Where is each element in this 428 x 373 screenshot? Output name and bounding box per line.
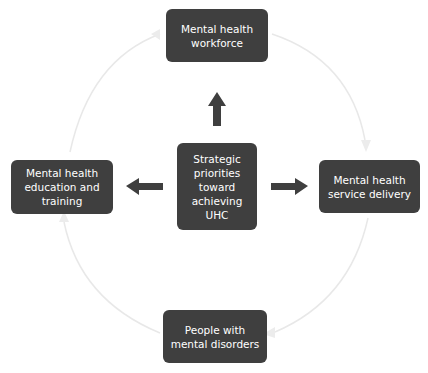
node-top: Mental health workforce bbox=[166, 9, 268, 62]
node-left-label: Mental health education and training bbox=[15, 166, 109, 208]
hub-label: Strategic priorities toward achieving UH… bbox=[181, 152, 253, 222]
hub-node: Strategic priorities toward achieving UH… bbox=[177, 143, 257, 230]
arc-right-to-bottom bbox=[275, 218, 368, 332]
node-bottom-label: People with mental disorders bbox=[167, 323, 263, 351]
arrow-right-icon bbox=[271, 178, 308, 195]
node-bottom: People with mental disorders bbox=[163, 310, 267, 363]
node-right: Mental health service delivery bbox=[319, 160, 420, 213]
node-top-label: Mental health workforce bbox=[170, 22, 264, 50]
arrow-up-icon bbox=[208, 92, 226, 126]
node-right-label: Mental health service delivery bbox=[323, 173, 416, 201]
arc-bottom-to-left bbox=[64, 222, 160, 333]
arrowhead-right-icon bbox=[361, 140, 371, 152]
node-left: Mental health education and training bbox=[11, 160, 113, 214]
arrowhead-top-icon bbox=[151, 29, 160, 40]
arc-left-to-top bbox=[70, 34, 160, 152]
arrow-left-icon bbox=[126, 178, 163, 195]
arc-top-to-right bbox=[272, 34, 365, 140]
